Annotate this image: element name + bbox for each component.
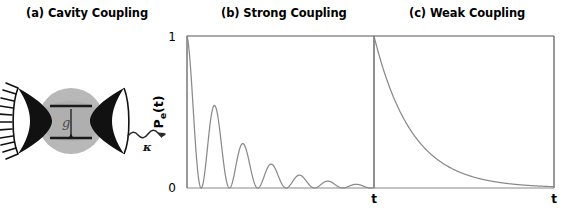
panel-c-x-label: t bbox=[551, 192, 557, 206]
panel-c-title: (c) Weak Coupling bbox=[409, 6, 525, 20]
cavity-qed-figure: (a) Cavity Coupling (b) Strong Coupling … bbox=[0, 0, 571, 215]
coupling-strength-label: g bbox=[62, 115, 70, 130]
panel-b-x-label: t bbox=[371, 192, 377, 206]
kappa-label: κ bbox=[142, 140, 152, 154]
cavity-schematic: g κ bbox=[0, 28, 172, 215]
weak-coupling-curve bbox=[374, 36, 554, 187]
panel-b-axes bbox=[187, 36, 374, 188]
panel-c-axes bbox=[374, 36, 554, 188]
left-cavity-mirror bbox=[0, 83, 52, 159]
cavity-decay-arrow: κ bbox=[128, 130, 165, 154]
strong-coupling-curve bbox=[187, 36, 374, 188]
right-cavity-mirror bbox=[90, 88, 129, 154]
panel-a-title: (a) Cavity Coupling bbox=[26, 6, 148, 20]
panel-b-title: (b) Strong Coupling bbox=[221, 6, 347, 20]
